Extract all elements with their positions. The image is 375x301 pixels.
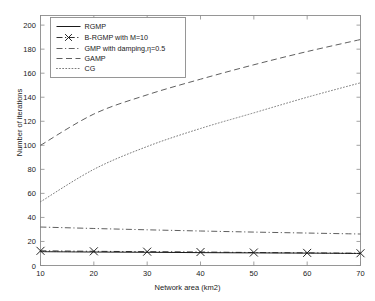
figure: Number of iterations Network area (km2) … bbox=[0, 0, 375, 301]
y-tick-label: 80 bbox=[18, 165, 36, 174]
y-tick-label: 200 bbox=[18, 21, 36, 30]
x-tick-label: 30 bbox=[140, 269, 154, 278]
y-tick-label: 0 bbox=[18, 262, 36, 271]
legend-label-1: B-RGMP with M=10 bbox=[85, 33, 149, 42]
y-tick-label: 140 bbox=[18, 93, 36, 102]
y-tick-label: 120 bbox=[18, 117, 36, 126]
x-tick-label: 20 bbox=[87, 269, 101, 278]
y-tick-label: 20 bbox=[18, 237, 36, 246]
y-tick-label: 40 bbox=[18, 213, 36, 222]
legend-label-4: CG bbox=[85, 64, 96, 73]
y-tick-label: 180 bbox=[18, 45, 36, 54]
legend-label-3: GAMP bbox=[85, 54, 106, 63]
chart-canvas bbox=[0, 0, 375, 301]
x-tick-label: 70 bbox=[354, 269, 368, 278]
series-line-cg bbox=[41, 83, 361, 202]
series-line-gmp-with-damping-0-5 bbox=[41, 227, 361, 234]
x-tick-label: 60 bbox=[300, 269, 314, 278]
y-tick-label: 60 bbox=[18, 189, 36, 198]
legend-label-2: GMP with damping,η=0.5 bbox=[85, 44, 166, 53]
legend-label-0: RGMP bbox=[85, 22, 107, 31]
x-tick-label: 40 bbox=[194, 269, 208, 278]
y-tick-label: 160 bbox=[18, 69, 36, 78]
x-tick-label: 50 bbox=[247, 269, 261, 278]
x-axis-label: Network area (km2) bbox=[0, 283, 375, 292]
series-marker bbox=[143, 248, 151, 256]
y-tick-label: 100 bbox=[18, 141, 36, 150]
